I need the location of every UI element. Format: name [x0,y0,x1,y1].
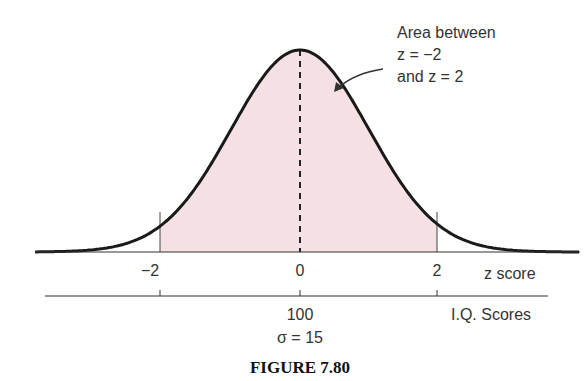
normal-curve-diagram: Area between z = −2 and z = 2 −2 0 2 z s… [0,0,588,381]
annotation-line3: and z = 2 [397,68,463,85]
sigma-label: σ = 15 [277,329,323,346]
z-tick-neg2: −2 [141,262,159,279]
figure-caption: FIGURE 7.80 [250,358,350,377]
shaded-area [160,50,437,252]
iq-center-label: 100 [287,306,314,323]
z-tick-0: 0 [296,262,305,279]
annotation-line1: Area between [397,24,496,41]
iq-axis-label: I.Q. Scores [451,306,531,323]
annotation-line2: z = −2 [397,46,442,63]
z-axis-label: z score [484,265,536,282]
annotation-arrow [338,69,383,88]
z-tick-2: 2 [433,262,442,279]
